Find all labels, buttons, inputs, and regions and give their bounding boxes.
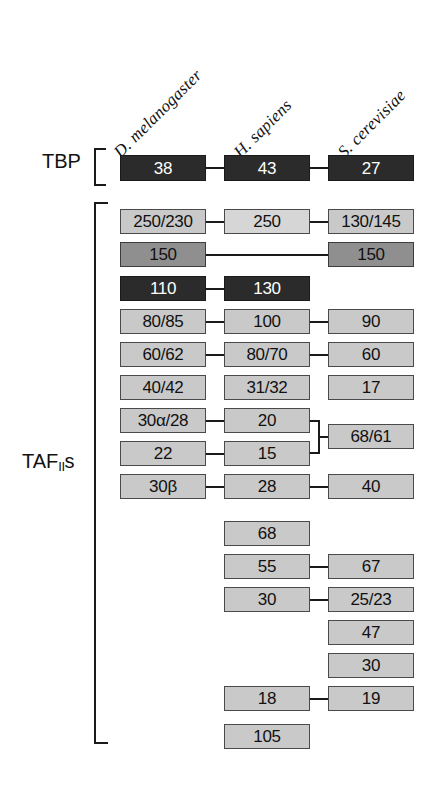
protein-box: 100 xyxy=(224,309,310,334)
diagram-canvas: D. melanogaster H. sapiens S. cerevisiae… xyxy=(0,0,448,792)
protein-box: 130 xyxy=(224,276,310,301)
connector xyxy=(310,321,328,323)
protein-box: 80/70 xyxy=(224,342,310,367)
protein-box: 20 xyxy=(224,408,310,433)
connector xyxy=(206,420,224,422)
protein-box: 67 xyxy=(328,554,414,579)
protein-box: 40/42 xyxy=(120,375,206,400)
protein-box: 250/230 xyxy=(120,209,206,234)
connector-long xyxy=(206,254,328,256)
connector xyxy=(310,354,328,356)
protein-box: 31/32 xyxy=(224,375,310,400)
group-label-tbp: TBP xyxy=(42,150,81,173)
protein-box: 17 xyxy=(328,375,414,400)
protein-box: 30 xyxy=(224,587,310,612)
protein-box: 27 xyxy=(328,155,414,181)
protein-box: 130/145 xyxy=(328,209,414,234)
connector xyxy=(310,486,328,488)
protein-box: 250 xyxy=(224,209,310,234)
protein-box: 22 xyxy=(120,441,206,466)
protein-box: 60/62 xyxy=(120,342,206,367)
group-label-tbp-text: TBP xyxy=(42,150,81,172)
bracket-tbp xyxy=(94,148,106,186)
protein-box: 28 xyxy=(224,474,310,499)
connector xyxy=(310,167,328,169)
group-label-tafs: TAFIIs xyxy=(22,450,75,474)
protein-box: 55 xyxy=(224,554,310,579)
protein-box: 30α/28 xyxy=(120,408,206,433)
protein-box: 110 xyxy=(120,276,206,301)
protein-box: 105 xyxy=(224,724,310,749)
connector xyxy=(206,321,224,323)
connector xyxy=(206,167,224,169)
connector-brace-out xyxy=(318,436,328,438)
connector xyxy=(310,221,328,223)
protein-box: 38 xyxy=(120,155,206,181)
protein-box: 30 xyxy=(328,653,414,678)
connector xyxy=(310,566,328,568)
protein-box: 25/23 xyxy=(328,587,414,612)
connector xyxy=(206,486,224,488)
protein-box: 60 xyxy=(328,342,414,367)
group-label-taf-text: TAF xyxy=(22,450,58,472)
protein-box: 150 xyxy=(328,242,414,267)
protein-box: 40 xyxy=(328,474,414,499)
connector xyxy=(206,354,224,356)
species-header-scer: S. cerevisiae xyxy=(334,86,410,162)
protein-box: 80/85 xyxy=(120,309,206,334)
connector xyxy=(206,221,224,223)
connector xyxy=(310,599,328,601)
connector xyxy=(206,288,224,290)
protein-box: 68/61 xyxy=(328,424,414,449)
group-label-taf-suffix: s xyxy=(65,450,75,472)
protein-box: 19 xyxy=(328,686,414,711)
protein-box: 90 xyxy=(328,309,414,334)
connector-brace-bottom xyxy=(310,452,320,454)
connector xyxy=(206,453,224,455)
protein-box: 150 xyxy=(120,242,206,267)
protein-box: 15 xyxy=(224,441,310,466)
protein-box: 18 xyxy=(224,686,310,711)
protein-box: 30β xyxy=(120,474,206,499)
protein-box: 47 xyxy=(328,620,414,645)
protein-box: 68 xyxy=(224,521,310,546)
species-header-dmel: D. melanogaster xyxy=(110,66,206,162)
connector xyxy=(310,698,328,700)
bracket-tafs xyxy=(94,202,108,744)
species-header-hsap: H. sapiens xyxy=(230,96,296,162)
protein-box: 43 xyxy=(224,155,310,181)
